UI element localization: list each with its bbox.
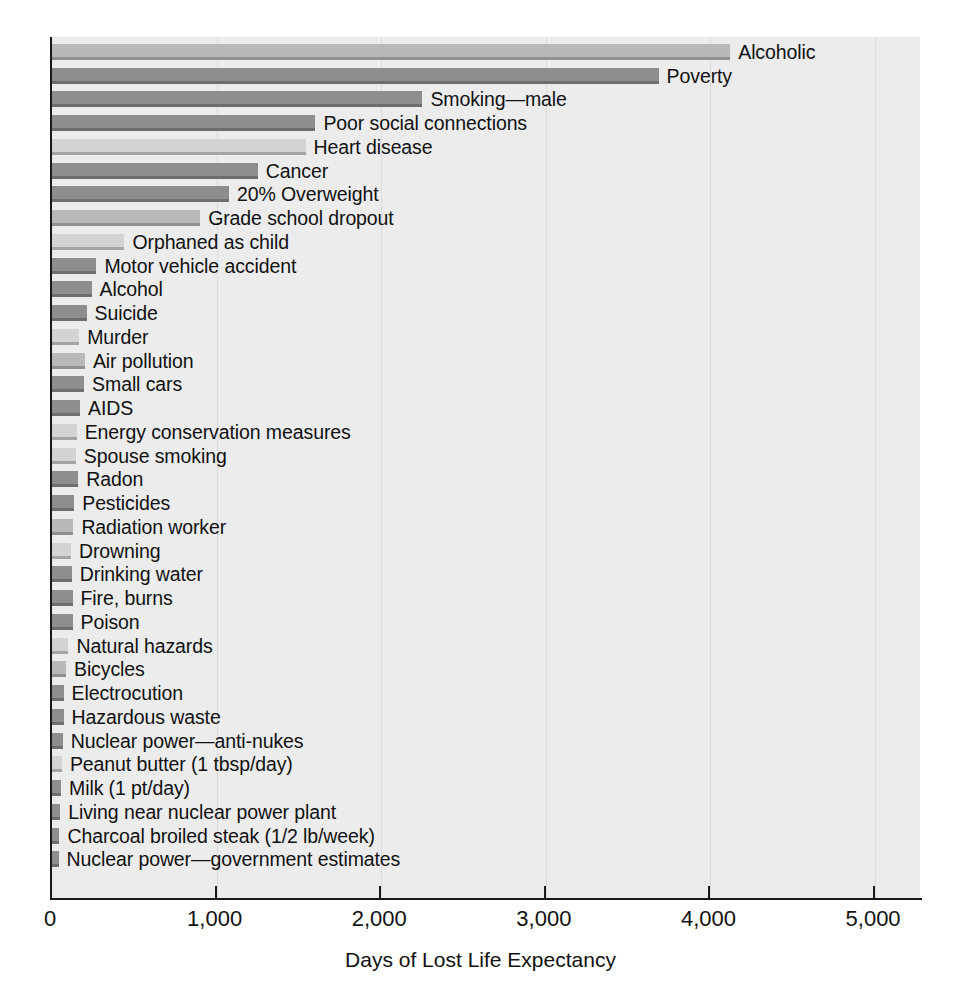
bar <box>52 210 200 226</box>
bar-row: Pesticides <box>52 490 920 514</box>
bar <box>52 733 63 749</box>
bar <box>52 353 85 369</box>
x-tick-5000 <box>873 886 875 898</box>
bar <box>52 186 229 202</box>
bar <box>52 91 422 107</box>
bar <box>52 281 92 297</box>
bar-row: Suicide <box>52 300 920 324</box>
x-tick-1000 <box>215 886 217 898</box>
bar-label: Living near nuclear power plant <box>68 801 336 823</box>
bar-label: Spouse smoking <box>84 445 227 467</box>
bar-label: Natural hazards <box>76 635 212 657</box>
bar <box>52 756 62 772</box>
bar <box>52 851 59 867</box>
bar-label: Poor social connections <box>323 112 527 134</box>
bar <box>52 685 64 701</box>
bar <box>52 44 730 60</box>
bar-label: 20% Overweight <box>237 183 379 205</box>
bar-label: Small cars <box>92 373 182 395</box>
bar <box>52 804 60 820</box>
bar-row: Radiation worker <box>52 514 920 538</box>
x-tick-label-4000: 4,000 <box>681 906 736 932</box>
bar-label: Grade school dropout <box>208 207 394 229</box>
bar-label: Smoking—male <box>430 88 566 110</box>
x-tick-label-0: 0 <box>44 906 56 932</box>
x-tick-label-2000: 2,000 <box>352 906 407 932</box>
bar-label: AIDS <box>88 397 133 419</box>
bar-row: Radon <box>52 466 920 490</box>
bar <box>52 661 66 677</box>
bar <box>52 543 71 559</box>
bar-label: Alcoholic <box>738 41 815 63</box>
bar <box>52 519 73 535</box>
bar <box>52 139 306 155</box>
bar-row: Nuclear power—anti-nukes <box>52 728 920 752</box>
x-axis-line <box>50 898 922 900</box>
bar-label: Drowning <box>79 540 161 562</box>
bar-label: Peanut butter (1 tbsp/day) <box>70 753 293 775</box>
bar-row: Small cars <box>52 371 920 395</box>
bar-row: 20% Overweight <box>52 181 920 205</box>
bar <box>52 780 61 796</box>
bar-label: Fire, burns <box>81 587 173 609</box>
x-axis-title: Days of Lost Life Expectancy <box>0 948 961 972</box>
bar-label: Poverty <box>667 65 732 87</box>
bar-row: Energy conservation measures <box>52 419 920 443</box>
bar-row: Alcoholic <box>52 39 920 63</box>
bar-row: Murder <box>52 324 920 348</box>
x-tick-label-1000: 1,000 <box>187 906 242 932</box>
bar-row: Peanut butter (1 tbsp/day) <box>52 751 920 775</box>
bar-row: Nuclear power—government estimates <box>52 846 920 870</box>
bar-row: Hazardous waste <box>52 704 920 728</box>
bar-label: Murder <box>87 326 148 348</box>
bar-label: Poison <box>81 611 140 633</box>
bar <box>52 709 64 725</box>
bar-label: Milk (1 pt/day) <box>69 777 190 799</box>
bar-label: Radon <box>86 468 143 490</box>
bar-label: Motor vehicle accident <box>104 255 296 277</box>
bar-row: Milk (1 pt/day) <box>52 775 920 799</box>
bar-label: Bicycles <box>74 658 145 680</box>
bar-row: Motor vehicle accident <box>52 253 920 277</box>
plot-area: AlcoholicPovertySmoking—malePoor social … <box>50 37 920 898</box>
bar-row: Air pollution <box>52 348 920 372</box>
bar <box>52 329 79 345</box>
bar-label: Suicide <box>95 302 158 324</box>
bar <box>52 400 80 416</box>
bar-row: Grade school dropout <box>52 205 920 229</box>
bar-row: Cancer <box>52 158 920 182</box>
bar-label: Nuclear power—anti-nukes <box>71 730 304 752</box>
x-tick-4000 <box>708 886 710 898</box>
bar <box>52 638 68 654</box>
bar <box>52 424 77 440</box>
bar <box>52 305 87 321</box>
bar-row: Bicycles <box>52 656 920 680</box>
x-tick-3000 <box>544 886 546 898</box>
bar-label: Alcohol <box>100 278 163 300</box>
bar <box>52 376 84 392</box>
bar-label: Cancer <box>266 160 328 182</box>
bar-row: Fire, burns <box>52 585 920 609</box>
bar-row: Charcoal broiled steak (1/2 lb/week) <box>52 823 920 847</box>
bar <box>52 234 124 250</box>
bar-row: Alcohol <box>52 276 920 300</box>
bar-label: Orphaned as child <box>132 231 289 253</box>
bar-label: Pesticides <box>82 492 170 514</box>
bar <box>52 68 659 84</box>
bar-label: Hazardous waste <box>72 706 221 728</box>
bar-row: Poor social connections <box>52 110 920 134</box>
bar-row: Orphaned as child <box>52 229 920 253</box>
bar-row: Poverty <box>52 63 920 87</box>
bar-label: Energy conservation measures <box>85 421 351 443</box>
bar-label: Radiation worker <box>81 516 226 538</box>
bar <box>52 471 78 487</box>
bar-label: Drinking water <box>80 563 203 585</box>
bar <box>52 566 72 582</box>
x-tick-label-5000: 5,000 <box>846 906 901 932</box>
bar-row: AIDS <box>52 395 920 419</box>
bar-row: Electrocution <box>52 680 920 704</box>
bar <box>52 448 76 464</box>
x-tick-label-3000: 3,000 <box>516 906 571 932</box>
bar-row: Drowning <box>52 538 920 562</box>
bar-row: Spouse smoking <box>52 443 920 467</box>
